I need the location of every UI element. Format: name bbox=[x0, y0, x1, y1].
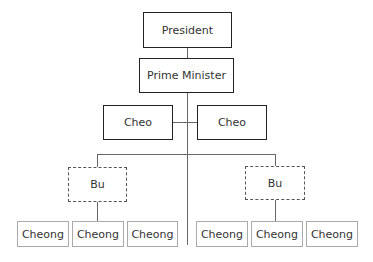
connector-bu-horizontal bbox=[97, 154, 276, 155]
prime-minister-box: Prime Minister bbox=[139, 58, 234, 93]
connector-cheong-right bbox=[275, 200, 276, 221]
connector-cheong-left bbox=[97, 202, 98, 221]
cheong-box-right-1: Cheong bbox=[196, 221, 248, 247]
cheong-box-left-3: Cheong bbox=[127, 221, 178, 247]
connector-president-pm bbox=[187, 48, 188, 58]
cheong-box-right-2: Cheong bbox=[251, 221, 303, 247]
cheong-box-right-3: Cheong bbox=[306, 221, 358, 247]
connector-bu-left bbox=[97, 154, 98, 167]
bu-box-right: Bu bbox=[245, 166, 305, 200]
connector-cheo bbox=[173, 122, 197, 123]
president-box: President bbox=[143, 12, 232, 48]
bu-box-left: Bu bbox=[68, 167, 127, 202]
cheong-box-left-2: Cheong bbox=[72, 221, 124, 247]
connector-trunk bbox=[187, 93, 188, 245]
cheong-box-left-1: Cheong bbox=[17, 221, 69, 247]
connector-bu-right bbox=[275, 154, 276, 166]
cheo-box-left: Cheo bbox=[103, 105, 173, 140]
cheo-box-right: Cheo bbox=[197, 105, 267, 140]
